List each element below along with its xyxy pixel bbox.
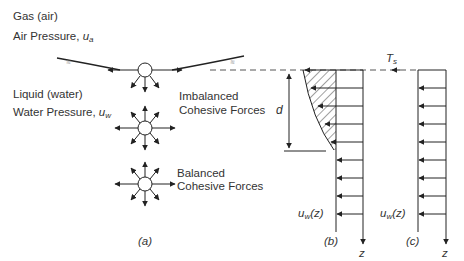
c-pressure-label: uw(z) bbox=[380, 207, 406, 223]
tension-label: Ts bbox=[386, 52, 397, 68]
c-z-axis-label: z bbox=[442, 247, 448, 260]
air-pressure-label: Air Pressure, ua bbox=[13, 30, 94, 46]
air-pressure-sub: a bbox=[89, 35, 93, 44]
liquid-label: Liquid (water) bbox=[13, 88, 83, 101]
water-pressure-label: Water Pressure, uw bbox=[13, 106, 111, 122]
surface-molecule bbox=[108, 63, 182, 92]
water-pressure-text: Water Pressure, bbox=[13, 106, 99, 118]
c-pressure-arg: (z) bbox=[392, 207, 405, 219]
gas-label: Gas (air) bbox=[13, 10, 58, 23]
tension-sub: s bbox=[393, 57, 397, 66]
caption-a: (a) bbox=[138, 235, 152, 248]
interior-molecule-2 bbox=[115, 162, 175, 206]
balanced-label-1: Balanced bbox=[177, 167, 225, 180]
interior-molecule-1 bbox=[115, 106, 175, 150]
svg-text:≋: ≋ bbox=[230, 59, 235, 65]
tension-symbol: T bbox=[386, 52, 393, 64]
balanced-label-2: Cohesive Forces bbox=[177, 180, 263, 193]
imbalanced-label-2: Cohesive Forces bbox=[179, 104, 265, 117]
b-pressure-label: uw(z) bbox=[298, 207, 324, 223]
svg-text:≋: ≋ bbox=[66, 59, 71, 65]
dimension-d-label: d bbox=[276, 104, 283, 117]
air-pressure-text: Air Pressure, bbox=[13, 30, 83, 42]
water-pressure-sub: w bbox=[105, 111, 111, 120]
caption-b: (b) bbox=[324, 235, 338, 248]
caption-c: (c) bbox=[406, 235, 419, 248]
imbalanced-label-1: Imbalanced bbox=[179, 90, 238, 103]
b-pressure-arg: (z) bbox=[310, 207, 323, 219]
b-z-axis-label: z bbox=[359, 247, 365, 260]
